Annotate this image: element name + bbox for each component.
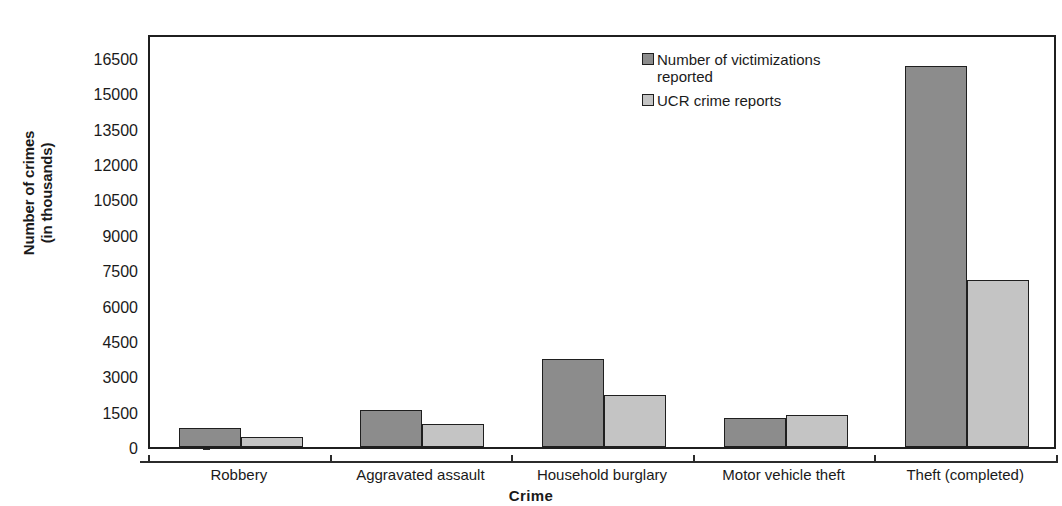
y-axis-tick-label: 6000 [62,300,138,316]
y-axis-tick-label: 1500 [62,406,138,422]
x-axis-tick-label: Theft (completed) [874,466,1056,484]
y-axis-title: Number of crimes (in thousands) [20,93,56,293]
legend-swatch-icon-series-1 [642,94,654,106]
y-axis-tick-label: 9000 [62,229,138,245]
x-axis-tick-mark [511,455,513,463]
x-axis-tick-label: Robbery [148,466,330,484]
bar [724,418,786,447]
y-axis-tick-label: 15000 [62,87,138,103]
plot-frame: Number of victimizations reported UCR cr… [148,35,1056,449]
y-axis-tick-label: 7500 [62,264,138,280]
bar [422,424,484,447]
bar-group [332,37,514,447]
legend-swatch-icon-series-0 [642,53,654,65]
bar [241,437,303,447]
x-axis-title: Crime [0,487,1062,504]
legend-label-series-0: Number of victimizations reported [657,51,820,85]
legend: Number of victimizations reported UCR cr… [642,51,912,116]
bar [542,359,604,447]
x-axis-tick-mark [1056,455,1058,463]
bar [179,428,241,447]
bar [967,280,1029,447]
legend-item-victimizations: Number of victimizations reported [642,51,912,85]
y-axis-tick-label: 4500 [62,335,138,351]
y-axis-tick-label: 12000 [62,158,138,174]
legend-item-ucr: UCR crime reports [642,92,912,109]
bar [604,395,666,447]
x-axis-line [140,461,1058,463]
y-axis-title-line-2: (in thousands) [38,93,56,293]
y-axis-tick-label: 10500 [62,193,138,209]
bar [905,66,967,447]
x-axis-tick-label: Aggravated assault [330,466,512,484]
plot-area [150,37,1054,447]
legend-label-series-1: UCR crime reports [657,92,781,109]
x-axis-tick-mark [148,455,150,463]
bar [786,415,848,447]
y-axis-tick-labels: 0150030004500600075009000105001200013500… [62,0,138,506]
x-axis-tick-mark [330,455,332,463]
y-axis-tick-label: 13500 [62,123,138,139]
y-axis-title-line-1: Number of crimes [20,93,38,293]
x-axis-tick-label: Household burglary [511,466,693,484]
y-axis-tick-label: 0 [62,441,138,457]
bar [360,410,422,447]
y-axis-tick-label: 16500 [62,52,138,68]
x-axis-tick-mark [693,455,695,463]
x-axis-tick-label: Motor vehicle theft [693,466,875,484]
x-axis-tick-mark [874,455,876,463]
bar-chart: Number of crimes (in thousands) 01500300… [0,0,1062,506]
bar-group [150,37,332,447]
y-axis-tick-label: 3000 [62,370,138,386]
